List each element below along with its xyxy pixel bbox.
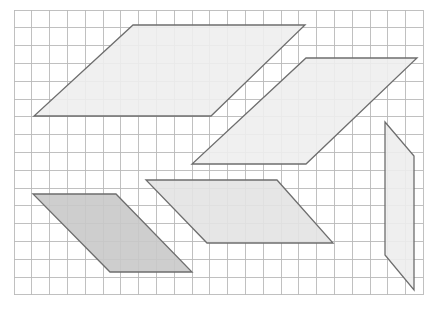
- figure-canvas: [0, 0, 442, 314]
- shape-group: [33, 25, 417, 290]
- grid-figure: [0, 0, 442, 314]
- parallelogram-right-thin: [385, 122, 414, 290]
